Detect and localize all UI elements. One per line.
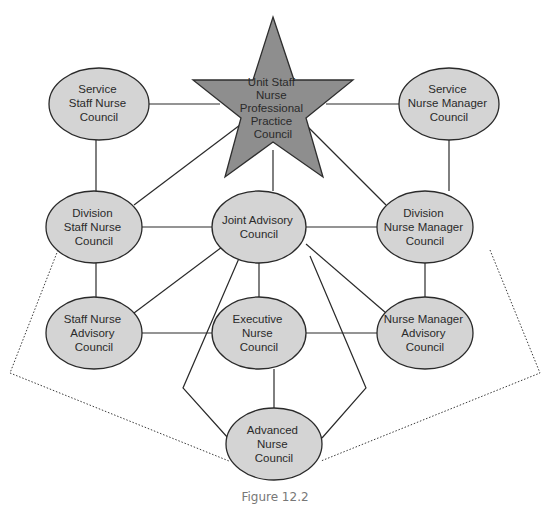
label-line: Council (254, 128, 292, 140)
label-line: Advanced (247, 424, 298, 436)
edge-joint-to-staff-advisory (134, 244, 226, 313)
label-line: Nurse (242, 327, 273, 339)
label-line: Staff Nurse (69, 97, 126, 109)
label-line: Council (255, 452, 293, 464)
label-line: Council (75, 235, 113, 247)
label-line: Council (430, 111, 468, 123)
label-line: Nurse Manager (408, 97, 487, 109)
node-service-manager[interactable]: Service Nurse Manager Council (399, 68, 499, 140)
node-service-staff[interactable]: Service Staff Nurse Council (49, 68, 149, 140)
label-line: Staff Nurse (64, 221, 121, 233)
edge-joint-to-advanced-right (310, 256, 366, 438)
node-joint-advisory[interactable]: Joint Advisory Council (212, 191, 306, 263)
label-line: Division (403, 207, 443, 219)
node-division-manager[interactable]: Division Nurse Manager Council (377, 191, 473, 263)
label-line: Service (428, 83, 466, 95)
label-line: Advisory (70, 327, 114, 339)
label-line: Executive (232, 313, 282, 325)
label-line: Advisory (401, 327, 445, 339)
ellipse-shape (212, 191, 306, 263)
label-line: Nurse Manager (384, 313, 463, 325)
node-executive[interactable]: Executive Nurse Council (212, 297, 306, 369)
label-line: Staff Nurse (64, 313, 121, 325)
label-line: Council (80, 111, 118, 123)
label-line: Council (240, 228, 278, 240)
figure-caption: Figure 12.2 (241, 490, 308, 504)
node-advanced[interactable]: Advanced Nurse Council (226, 408, 322, 480)
label-line: Professional (240, 102, 303, 114)
label-line: Unit Staff (248, 76, 296, 88)
council-structure-diagram: Unit Staff Nurse Professional Practice C… (0, 0, 552, 513)
node-staff-advisory[interactable]: Staff Nurse Advisory Council (46, 297, 142, 369)
label-line: Nurse Manager (384, 221, 463, 233)
label-line: Practice (251, 115, 293, 127)
label-line: Nurse (256, 89, 287, 101)
label-line: Division (72, 207, 112, 219)
node-division-staff[interactable]: Division Staff Nurse Council (46, 191, 142, 263)
label-line: Council (406, 341, 444, 353)
label-line: Council (240, 341, 278, 353)
label-line: Council (75, 341, 113, 353)
edge-division-staff-to-unit (134, 125, 240, 205)
label-line: Service (78, 83, 116, 95)
node-manager-advisory[interactable]: Nurse Manager Advisory Council (377, 297, 473, 369)
label-line: Joint Advisory (222, 214, 293, 226)
label-line: Council (406, 235, 444, 247)
label-line: Nurse (257, 438, 288, 450)
edge-joint-to-manager-advisory (306, 244, 386, 313)
edges (96, 104, 449, 438)
